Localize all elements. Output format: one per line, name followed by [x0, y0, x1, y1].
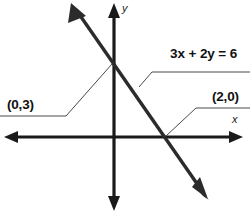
equation-label: 3x + 2y = 6	[170, 47, 237, 61]
y-axis	[108, 3, 120, 211]
y-intercept-label: (0,3)	[7, 98, 34, 112]
plotted-line-3x-2y-6	[68, 3, 209, 200]
leader-line-equation	[139, 72, 250, 87]
x-intercept-label: (2,0)	[212, 90, 239, 104]
coordinate-plane-graphic	[0, 0, 250, 215]
graph-figure: y x (0,3) (2,0) 3x + 2y = 6	[0, 0, 250, 215]
x-axis-label: x	[232, 114, 238, 125]
y-axis-arrow-down-icon	[108, 196, 120, 211]
y-axis-label: y	[122, 3, 128, 14]
y-axis-arrow-up-icon	[108, 3, 120, 18]
x-axis-arrow-right-icon	[229, 131, 243, 143]
x-axis-arrow-left-icon	[4, 131, 18, 143]
equation-line-segment	[79, 14, 200, 188]
x-axis	[4, 131, 243, 143]
